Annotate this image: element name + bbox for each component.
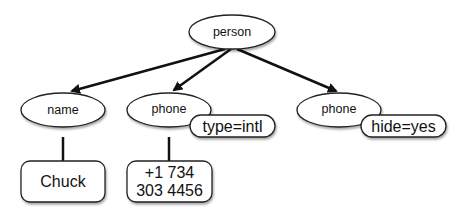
node-name: name — [21, 93, 105, 127]
edge-person-phone-hidden — [237, 49, 336, 91]
node-phone-intl-label: phone — [152, 102, 187, 116]
node-chuck-value: Chuck — [21, 161, 105, 202]
xml-tree-diagram: person name phone type=intl phone hide=y… — [0, 0, 465, 217]
phone-number-line1: +1 734 — [145, 164, 194, 181]
node-person: person — [189, 15, 275, 49]
attribute-type-label: type=intl — [202, 118, 262, 135]
attribute-hide-label: hide=yes — [371, 118, 436, 135]
node-name-label: name — [47, 103, 78, 117]
node-phone-hidden: phone hide=yes — [297, 93, 446, 137]
node-phone-hidden-label: phone — [322, 102, 357, 116]
node-phone-intl: phone type=intl — [127, 93, 275, 137]
node-person-label: person — [213, 25, 251, 39]
phone-number-line2: 303 4456 — [136, 182, 203, 199]
node-phone-number-value: +1 734 303 4456 — [127, 161, 212, 202]
node-chuck-label: Chuck — [40, 173, 86, 190]
